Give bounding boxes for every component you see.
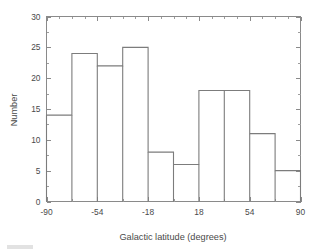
y-tick-label: 30 bbox=[31, 12, 41, 22]
y-tick-label: 15 bbox=[31, 104, 41, 114]
x-axis-ticks bbox=[48, 17, 302, 202]
page-edge-artifact bbox=[7, 245, 33, 249]
x-tick-label: 18 bbox=[194, 207, 204, 217]
y-tick-label: 10 bbox=[31, 135, 41, 145]
x-tick-label: 54 bbox=[245, 207, 255, 217]
x-tick-label: -54 bbox=[91, 207, 103, 217]
y-axis-title: Number bbox=[9, 94, 19, 127]
histogram-figure: -90-54-18185490 051015202530 Galactic la… bbox=[0, 0, 318, 252]
histogram-outline bbox=[47, 47, 301, 201]
y-axis-tick-labels: 051015202530 bbox=[31, 12, 41, 207]
y-tick-label: 0 bbox=[36, 197, 41, 207]
x-axis-tick-labels: -90-54-18185490 bbox=[40, 207, 305, 217]
x-tick-label: -90 bbox=[40, 207, 52, 217]
x-tick-label: 90 bbox=[296, 207, 306, 217]
x-tick-label: -18 bbox=[142, 207, 154, 217]
y-tick-label: 5 bbox=[36, 166, 41, 176]
y-tick-label: 20 bbox=[31, 73, 41, 83]
chart-canvas: -90-54-18185490 051015202530 Galactic la… bbox=[0, 0, 318, 252]
y-tick-label: 25 bbox=[31, 42, 41, 52]
x-axis-title: Galactic latitude (degrees) bbox=[119, 232, 226, 242]
